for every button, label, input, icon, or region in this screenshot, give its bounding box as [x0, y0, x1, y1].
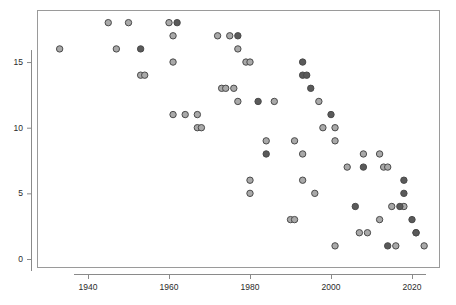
data-point [389, 203, 395, 209]
x-tick-label: 1980 [241, 282, 260, 292]
x-tick-label: 1960 [160, 282, 179, 292]
data-point [170, 33, 176, 39]
data-point [376, 216, 382, 222]
data-point [255, 98, 261, 104]
data-point [271, 98, 277, 104]
y-tick-label: 0 [18, 254, 23, 264]
x-tick-label: 1940 [79, 282, 98, 292]
data-point [194, 111, 200, 117]
data-point [247, 177, 253, 183]
y-tick-label: 10 [14, 123, 24, 133]
data-point [113, 46, 119, 52]
data-point [198, 125, 204, 131]
data-point [413, 230, 419, 236]
data-point [170, 111, 176, 117]
data-point [291, 216, 297, 222]
x-tick-label: 2000 [322, 282, 341, 292]
data-point [364, 230, 370, 236]
plot-canvas: 19401960198020002020 051015 [0, 0, 456, 305]
data-point [137, 46, 143, 52]
data-point [352, 203, 358, 209]
data-point [332, 138, 338, 144]
data-point [223, 85, 229, 91]
y-tick-label: 15 [14, 57, 24, 67]
data-point [263, 138, 269, 144]
data-point [227, 33, 233, 39]
data-point [56, 46, 62, 52]
plot-background [0, 0, 456, 305]
data-point [344, 164, 350, 170]
data-point [308, 85, 314, 91]
data-point [235, 46, 241, 52]
data-point [360, 151, 366, 157]
data-point [291, 138, 297, 144]
data-point [247, 190, 253, 196]
data-point [320, 125, 326, 131]
data-point [125, 19, 131, 25]
data-point [393, 243, 399, 249]
data-point [299, 59, 305, 65]
data-point [170, 59, 176, 65]
data-point [332, 243, 338, 249]
data-point [174, 19, 180, 25]
data-point [235, 98, 241, 104]
data-point [105, 19, 111, 25]
data-point [312, 190, 318, 196]
data-point [376, 151, 382, 157]
data-point [356, 230, 362, 236]
data-point [316, 98, 322, 104]
data-point [409, 216, 415, 222]
data-point [247, 59, 253, 65]
data-point [235, 33, 241, 39]
data-point [401, 177, 407, 183]
data-point [182, 111, 188, 117]
data-point [360, 164, 366, 170]
data-point [214, 33, 220, 39]
data-point [299, 151, 305, 157]
data-point [401, 190, 407, 196]
data-point [263, 151, 269, 157]
data-point [385, 164, 391, 170]
data-point [304, 72, 310, 78]
data-point [332, 125, 338, 131]
data-point [166, 19, 172, 25]
data-point [385, 243, 391, 249]
scatter-chart: 19401960198020002020 051015 [0, 0, 456, 305]
data-point [421, 243, 427, 249]
data-point [142, 72, 148, 78]
data-point [299, 177, 305, 183]
y-tick-label: 5 [18, 188, 23, 198]
x-tick-label: 2020 [403, 282, 422, 292]
data-point [231, 85, 237, 91]
data-point [397, 203, 403, 209]
data-point [328, 111, 334, 117]
